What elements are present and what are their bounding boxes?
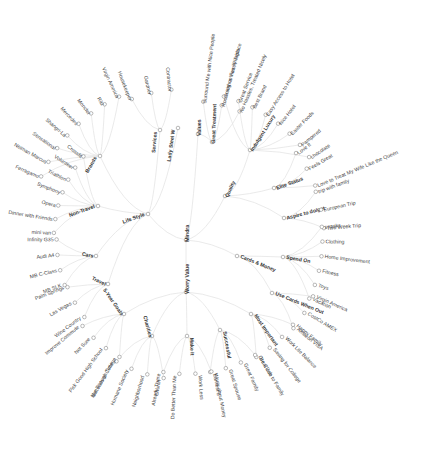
- leaf-node[interactable]: Great Spouse: [224, 366, 243, 401]
- branch-node[interactable]: Make It: [185, 334, 195, 355]
- node-circle-icon[interactable]: [178, 372, 182, 376]
- node-circle-icon[interactable]: [307, 297, 311, 301]
- node-circle-icon[interactable]: [253, 353, 257, 357]
- node-circle-icon[interactable]: [185, 334, 189, 338]
- node-circle-icon[interactable]: [158, 128, 162, 132]
- node-circle-icon[interactable]: [96, 204, 100, 208]
- node-circle-icon[interactable]: [39, 175, 43, 179]
- leaf-node[interactable]: Contractor: [165, 67, 173, 92]
- node-circle-icon[interactable]: [270, 291, 274, 295]
- leaf-node[interactable]: MB C-Class: [29, 267, 62, 279]
- node-circle-icon[interactable]: [291, 323, 295, 327]
- branch-node[interactable]: Elite Status: [272, 175, 304, 190]
- leaf-node[interactable]: Neiman Marcus: [13, 141, 50, 164]
- node-circle-icon[interactable]: [320, 254, 324, 258]
- leaf-node[interactable]: Gardner: [143, 75, 153, 95]
- root-node[interactable]: Mindra: [184, 225, 190, 242]
- leaf-node[interactable]: Not Sure: [73, 336, 96, 355]
- branch-node[interactable]: Values: [196, 119, 202, 136]
- node-circle-icon[interactable]: [54, 217, 58, 221]
- node-circle-icon[interactable]: [321, 240, 325, 244]
- branch-node[interactable]: Cars: [81, 251, 97, 259]
- branch-node[interactable]: Spend On: [281, 254, 311, 264]
- node-circle-icon[interactable]: [268, 346, 272, 350]
- node-circle-icon[interactable]: [280, 335, 284, 339]
- node-circle-icon[interactable]: [235, 254, 239, 258]
- node-circle-icon[interactable]: [61, 191, 65, 195]
- node-circle-icon[interactable]: [218, 328, 222, 332]
- node-circle-icon[interactable]: [118, 355, 122, 359]
- node-circle-icon[interactable]: [317, 269, 321, 273]
- leaf-node[interactable]: Surround Me with Nice People: [201, 33, 216, 103]
- node-circle-icon[interactable]: [83, 315, 87, 319]
- node-circle-icon[interactable]: [162, 376, 166, 380]
- leaf-node[interactable]: Fitness: [317, 268, 340, 278]
- node-circle-icon[interactable]: [224, 366, 228, 370]
- node-circle-icon[interactable]: [66, 178, 70, 182]
- leaf-node[interactable]: Symphony: [36, 181, 64, 196]
- leaf-node[interactable]: European Trip: [319, 199, 356, 212]
- node-circle-icon[interactable]: [210, 370, 214, 374]
- node-circle-icon[interactable]: [319, 208, 323, 212]
- leaf-node[interactable]: Clothing: [321, 238, 345, 244]
- node-circle-icon[interactable]: [311, 295, 315, 299]
- leaf-node[interactable]: Triathlon: [47, 168, 70, 183]
- node-circle-icon[interactable]: [194, 372, 198, 376]
- node-circle-icon[interactable]: [73, 301, 77, 305]
- leaf-node[interactable]: Going on Family Trips: [222, 48, 241, 99]
- node-circle-icon[interactable]: [47, 160, 51, 164]
- node-circle-icon[interactable]: [313, 283, 317, 287]
- leaf-node[interactable]: Audi A4: [36, 252, 59, 260]
- leaf-node[interactable]: Nice Hotel: [276, 104, 296, 126]
- leaf-node[interactable]: Infinity G35: [27, 236, 58, 242]
- leaf-node[interactable]: Dinner with Friends: [8, 209, 57, 222]
- leaf-node[interactable]: Opera: [41, 199, 60, 209]
- leaf-node[interactable]: Home Improvement: [320, 253, 371, 264]
- node-circle-icon[interactable]: [281, 255, 285, 259]
- node-circle-icon[interactable]: [52, 231, 56, 235]
- branch-node[interactable]: Services: [150, 128, 162, 153]
- node-circle-icon[interactable]: [94, 254, 98, 258]
- leaf-node[interactable]: Las Vegas: [48, 300, 76, 317]
- leaf-node[interactable]: Moncler: [76, 97, 93, 116]
- node-circle-icon[interactable]: [92, 336, 96, 340]
- branch-node[interactable]: Travel: [91, 275, 110, 287]
- leaf-node[interactable]: Neighborhood: [130, 373, 149, 408]
- node-circle-icon[interactable]: [58, 268, 62, 272]
- leaf-node[interactable]: Worry about Money: [210, 370, 228, 419]
- branch-node[interactable]: Brands: [84, 154, 102, 174]
- branch-node[interactable]: Worry Value: [184, 264, 190, 294]
- node-circle-icon[interactable]: [176, 126, 180, 130]
- node-circle-icon[interactable]: [162, 370, 166, 374]
- leaf-node[interactable]: Sensational: [32, 130, 59, 151]
- leaf-node[interactable]: Humane Society: [109, 367, 133, 406]
- node-circle-icon[interactable]: [104, 346, 108, 350]
- leaf-node[interactable]: Mercedes: [59, 105, 80, 126]
- node-circle-icon[interactable]: [303, 311, 307, 315]
- leaf-node[interactable]: Shangri-La: [45, 117, 70, 138]
- branch-node[interactable]: Charities: [142, 315, 154, 338]
- leaf-node[interactable]: Ferragamo: [14, 163, 42, 179]
- node-circle-icon[interactable]: [146, 212, 150, 216]
- leaf-node[interactable]: Great Family: [239, 361, 261, 392]
- node-circle-icon[interactable]: [55, 238, 59, 242]
- leaf-node[interactable]: Do Better Than Me: [169, 372, 181, 419]
- node-circle-icon[interactable]: [66, 285, 70, 289]
- node-circle-icon[interactable]: [249, 312, 253, 316]
- node-circle-icon[interactable]: [292, 326, 296, 330]
- node-circle-icon[interactable]: [56, 253, 60, 257]
- node-circle-icon[interactable]: [130, 367, 134, 371]
- branch-node[interactable]: Aspire to do/get: [282, 205, 325, 221]
- leaf-node[interactable]: Toys: [313, 282, 330, 291]
- branch-node[interactable]: 5-Year Goals: [102, 287, 126, 316]
- leaf-node[interactable]: Ritz: [96, 96, 106, 107]
- node-circle-icon[interactable]: [106, 282, 110, 286]
- node-circle-icon[interactable]: [146, 373, 150, 377]
- leaf-node[interactable]: mini van: [31, 229, 55, 236]
- leaf-node[interactable]: Work Less: [194, 372, 206, 400]
- node-circle-icon[interactable]: [56, 204, 60, 208]
- node-circle-icon[interactable]: [81, 324, 85, 328]
- node-circle-icon[interactable]: [239, 361, 243, 365]
- node-circle-icon[interactable]: [320, 225, 324, 229]
- node-circle-icon[interactable]: [98, 154, 102, 158]
